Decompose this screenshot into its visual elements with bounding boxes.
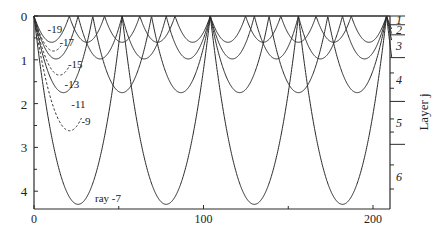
ray-curve <box>34 16 392 93</box>
chart-svg: 012340100200123456 -19-17-15-13-11-9ray … <box>0 0 437 236</box>
ray-annotation: -11 <box>71 98 85 110</box>
layer-label: 5 <box>396 116 402 130</box>
y-tick-label: 4 <box>21 184 28 199</box>
ray-annotation: -13 <box>65 78 80 90</box>
x-tick-label: 100 <box>195 212 213 226</box>
x-tick-label: 200 <box>364 212 382 226</box>
ray-annotation: -19 <box>48 23 63 35</box>
ray-curves <box>34 16 392 204</box>
layer-label: 4 <box>396 73 402 87</box>
y-tick-label: 2 <box>21 97 28 112</box>
layer-label: 3 <box>395 39 402 53</box>
layer-label: 2 <box>396 23 402 37</box>
axes: 012340100200123456 <box>21 9 405 226</box>
y-tick-label: 3 <box>21 140 28 155</box>
ray-annotation: -17 <box>59 36 74 48</box>
ray-annotation: -9 <box>81 115 91 127</box>
layer-label: 6 <box>396 170 402 184</box>
y-tick-label: 1 <box>21 53 28 68</box>
y-tick-label: 0 <box>21 9 28 24</box>
ray-annotation: -15 <box>68 58 83 70</box>
right-axis-label: Layer j <box>416 93 431 130</box>
ray-path-chart: 012340100200123456 -19-17-15-13-11-9ray … <box>0 0 437 236</box>
ray-annotation: ray -7 <box>95 192 121 204</box>
x-tick-label: 0 <box>31 212 37 226</box>
